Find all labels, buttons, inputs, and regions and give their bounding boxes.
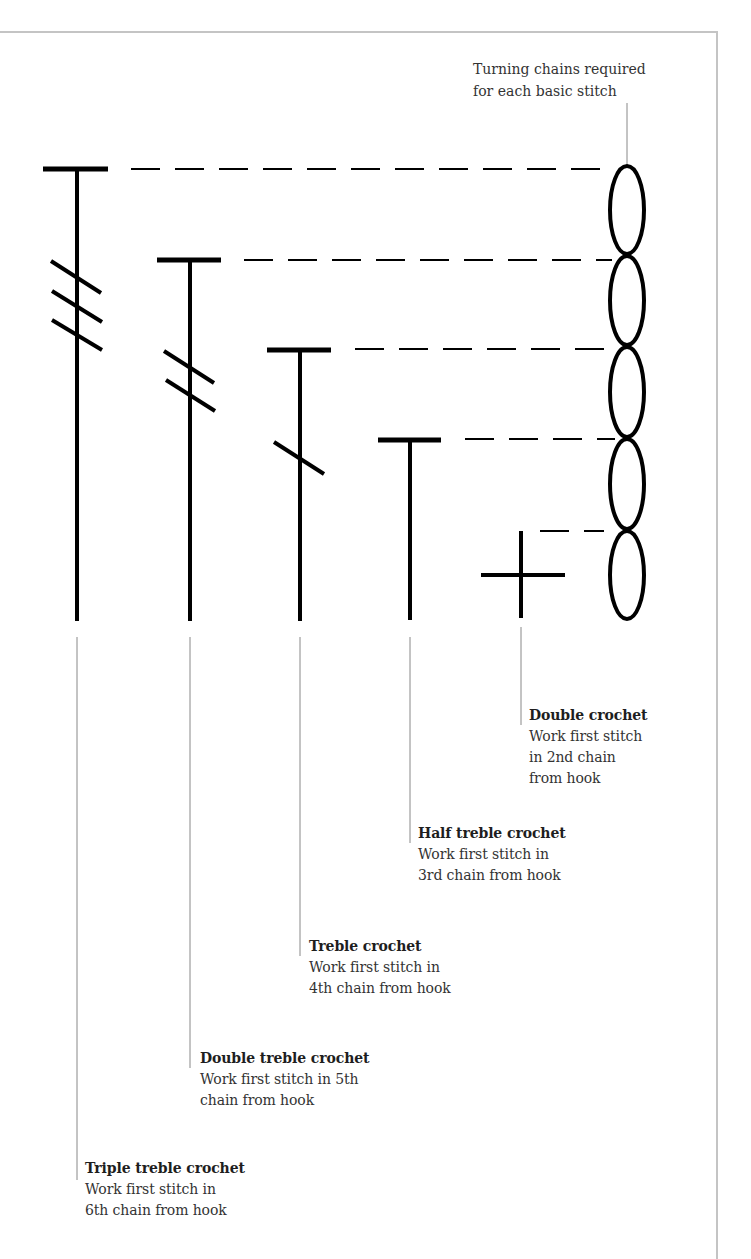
label-double: Double crochet Work first stitch in 2nd … [529, 705, 647, 789]
label-line: chain from hook [200, 1090, 369, 1111]
stitch-symbols [43, 169, 615, 1180]
label-line: in 2nd chain [529, 747, 647, 768]
stitch-double [481, 531, 604, 725]
label-title: Double crochet [529, 705, 647, 726]
label-double-treble: Double treble crochet Work first stitch … [200, 1048, 369, 1111]
label-title: Triple treble crochet [85, 1158, 245, 1179]
label-triple-treble: Triple treble crochet Work first stitch … [85, 1158, 245, 1221]
label-line: from hook [529, 768, 647, 789]
label-line: 4th chain from hook [309, 978, 451, 999]
label-line: Work first stitch in [309, 957, 451, 978]
chain-oval-2 [610, 256, 644, 345]
turning-chain [610, 103, 644, 619]
label-line: Work first stitch in [418, 844, 566, 865]
chain-oval-3 [610, 347, 644, 437]
label-title: Half treble crochet [418, 823, 566, 844]
label-title: Double treble crochet [200, 1048, 369, 1069]
chain-oval-1 [610, 166, 644, 254]
label-line: Work first stitch [529, 726, 647, 747]
label-line: 6th chain from hook [85, 1200, 245, 1221]
label-line: Work first stitch in [85, 1179, 245, 1200]
chain-oval-4 [610, 439, 644, 529]
turning-chains-label: Turning chains required for each basic s… [473, 58, 646, 102]
turning-chains-label-line2: for each basic stitch [473, 80, 646, 102]
stitch-triple-treble [43, 169, 612, 1180]
label-title: Treble crochet [309, 936, 451, 957]
turning-chains-label-line1: Turning chains required [473, 58, 646, 80]
chain-oval-5 [610, 531, 644, 619]
label-line: Work first stitch in 5th [200, 1069, 369, 1090]
label-line: 3rd chain from hook [418, 865, 566, 886]
label-treble: Treble crochet Work first stitch in 4th … [309, 936, 451, 999]
label-half-treble: Half treble crochet Work first stitch in… [418, 823, 566, 886]
stitch-height-diagram [0, 0, 751, 1259]
